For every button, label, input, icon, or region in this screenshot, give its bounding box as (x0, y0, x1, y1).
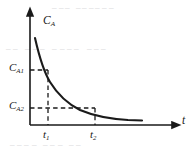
x-tick-label-t2: t2 (90, 129, 96, 140)
y-axis-label-subscript: A (51, 20, 55, 28)
y-axis-label-base: C (43, 14, 51, 26)
decay-curve (35, 38, 142, 121)
x-tick-t1-subscript: 1 (46, 134, 49, 141)
chart-figure: ⎯⎯⎯ ⎯⎯⎯⎯⎯⎯ ⎯⎯ ⎯⎯⎯ ⎯⎯⎯⎯ ⎯⎯⎯ ⎯⎯⎯⎯ ⎯⎯⎯ ⎯⎯ C… (0, 0, 195, 151)
plot-canvas (0, 0, 195, 151)
y-axis-label: CA (43, 15, 55, 27)
y-tick-label-ca1: CA1 (9, 62, 24, 73)
x-axis-label: t (182, 115, 185, 127)
y-tick-ca2-subscript: A2 (16, 105, 24, 112)
y-tick-label-ca2: CA2 (9, 100, 24, 111)
x-tick-t2-subscript: 2 (93, 134, 96, 141)
x-tick-label-t1: t1 (43, 129, 49, 140)
y-tick-ca1-subscript: A1 (16, 67, 24, 74)
